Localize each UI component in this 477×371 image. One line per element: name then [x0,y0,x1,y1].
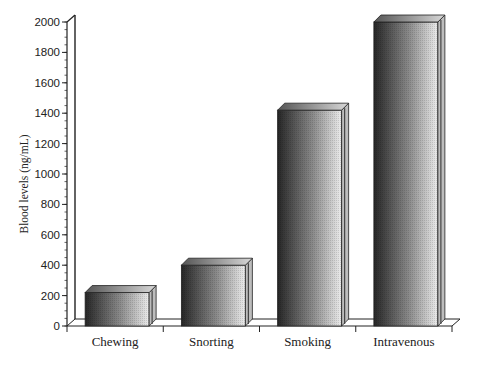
y-tick-label: 2000 [34,16,60,28]
bar-intravenous [374,15,445,326]
y-tick-label: 1600 [34,77,60,89]
y-tick-label: 1400 [34,107,60,119]
bar-chart: 0200400600800100012001400160018002000Blo… [0,0,477,371]
y-axis-label: Blood levels (ng/mL) [18,134,31,233]
bars [85,15,445,326]
y-tick-label: 0 [54,320,60,332]
y-tick-label: 600 [41,229,60,241]
y-tick-label: 200 [41,290,60,302]
y-tick-label: 1800 [34,46,60,58]
bar-smoking [278,103,349,326]
y-tick-label: 1200 [34,138,60,150]
x-category-label: Smoking [284,334,331,349]
y-tick-label: 800 [41,198,60,210]
x-category-label: Intravenous [373,334,434,349]
x-category-label: Snorting [189,334,234,349]
bar-chewing [85,286,156,326]
bar-snorting [181,258,252,326]
y-tick-label: 400 [41,259,60,271]
x-category-label: Chewing [92,334,139,349]
y-tick-label: 1000 [34,168,60,180]
